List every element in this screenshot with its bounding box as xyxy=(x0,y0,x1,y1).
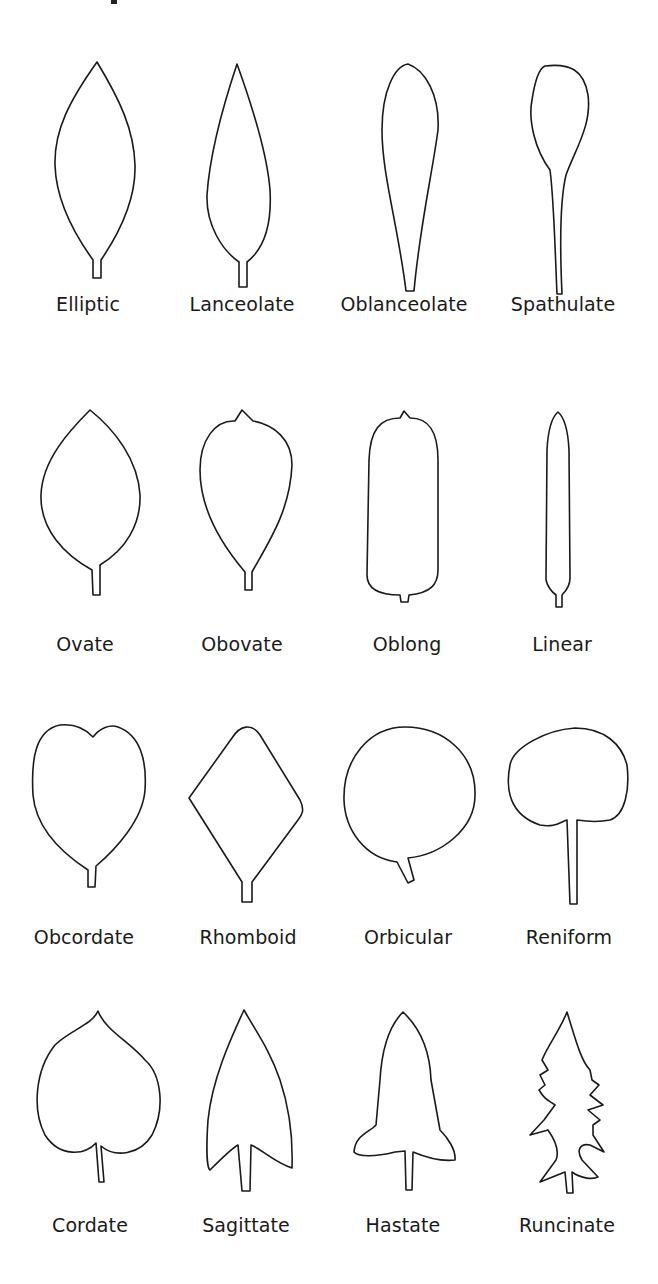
runcinate-leaf-icon xyxy=(0,0,658,1284)
label-runcinate: Runcinate xyxy=(487,1214,647,1236)
leaf-shapes-plate: Elliptic Lanceolate Oblanceolate Spathul… xyxy=(0,0,658,1284)
